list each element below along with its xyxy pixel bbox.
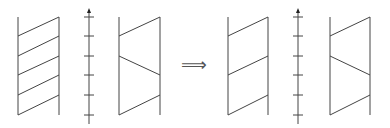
- strip-segment: [330, 95, 370, 115]
- strip-segment: [18, 95, 59, 115]
- strip-segment: [228, 56, 268, 75]
- strip-segment: [228, 95, 268, 115]
- strip-segment: [18, 75, 59, 95]
- implies-arrow-icon: ⟹: [180, 55, 208, 75]
- strip-segment: [119, 95, 160, 115]
- strip-segment: [228, 17, 268, 36]
- before-axis: [84, 8, 94, 124]
- before-strip-left: [18, 17, 59, 115]
- strip-segment: [18, 17, 59, 36]
- strip-segment: [119, 56, 160, 75]
- diagram-canvas: ⟹: [0, 0, 390, 128]
- strip-segment: [18, 56, 59, 75]
- strip-segment: [18, 36, 59, 56]
- axis-arrow-up-icon: [296, 8, 300, 13]
- after-strip-left: [228, 17, 268, 115]
- strip-segment: [330, 17, 370, 36]
- after-axis: [293, 8, 303, 124]
- axis-arrow-up-icon: [87, 8, 91, 13]
- after-strip-right: [330, 17, 370, 115]
- strip-segment: [330, 56, 370, 75]
- strip-segment: [119, 17, 160, 36]
- before-strip-right: [119, 17, 160, 115]
